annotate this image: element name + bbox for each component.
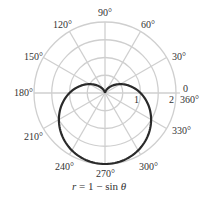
grid-spoke [105,58,166,94]
radial-tick-1: 1 [134,94,139,105]
radial-tick-2: 2 [169,94,174,105]
angle-label-330: 330° [172,125,191,136]
angle-label-0: 0 [183,83,188,94]
angle-label-240: 240° [55,161,74,172]
angle-label-300: 300° [139,161,158,172]
angle-label-210: 210° [24,131,43,142]
grid-spoke [44,93,105,129]
angle-label-90: 90° [98,7,112,18]
angle-label-120: 120° [53,19,72,30]
caption-theta: θ [121,180,127,192]
angle-label-60: 60° [141,19,155,30]
angle-label-270: 270° [96,168,115,179]
angle-label-30: 30° [172,51,186,62]
angle-label-150: 150° [24,51,43,62]
polar-chart: 1 2 0 360° 30° 60° 90° 120° 150° 180° 21… [0,0,209,206]
caption-equation: = 1 − sin [76,180,121,192]
angle-label-180: 180° [14,87,33,98]
polar-grid [34,22,180,164]
grid-spoke [44,58,105,94]
angle-label-360: 360° [180,94,199,105]
grid-spoke [70,93,106,154]
chart-caption: r = 1 − sin θ [72,180,127,192]
